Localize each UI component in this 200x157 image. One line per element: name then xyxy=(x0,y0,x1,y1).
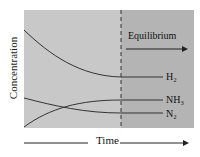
equilibrium-label: Equilibrium xyxy=(128,30,176,41)
equilibrium-arrowhead-icon xyxy=(182,46,188,52)
time-arrowhead-icon xyxy=(183,140,189,146)
nh3-label: NH₃ xyxy=(166,94,184,105)
y-axis-label: Concentration xyxy=(7,28,19,108)
h2-label: H₂ xyxy=(166,71,177,82)
n2-label: N₂ xyxy=(166,108,177,119)
x-axis-label: Time xyxy=(96,134,119,146)
